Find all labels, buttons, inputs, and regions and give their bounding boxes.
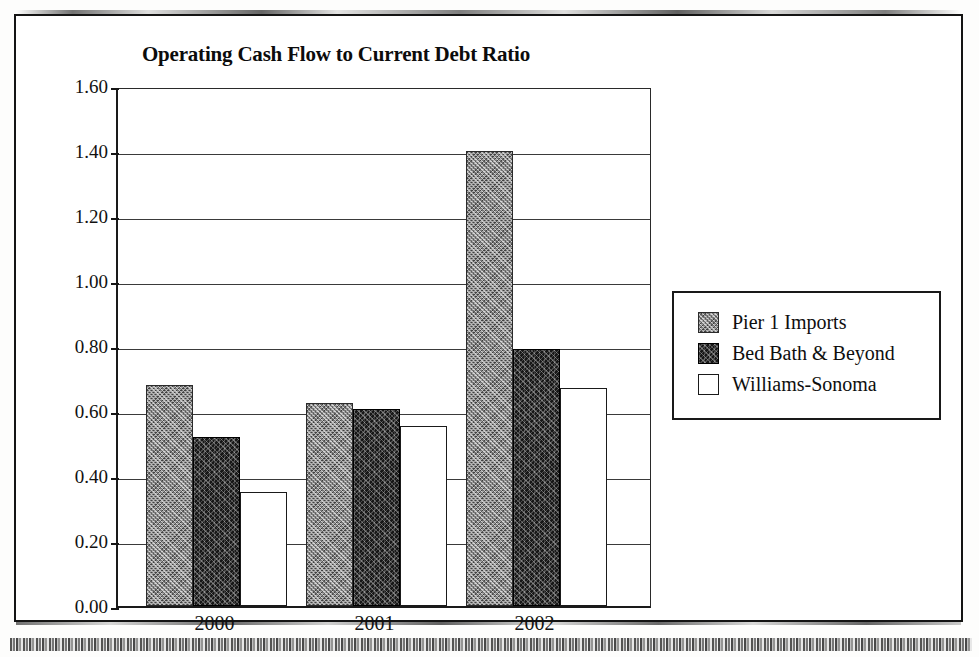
bar-bed-bath-beyond-2001	[353, 409, 400, 606]
y-axis-label: 1.60	[46, 76, 108, 98]
bar-pier-1-imports-2002	[466, 151, 513, 606]
bar-pier-1-imports-2001	[306, 403, 353, 606]
y-axis-label: 0.20	[46, 531, 108, 553]
x-axis-label-2000: 2000	[124, 612, 305, 635]
legend-swatch-icon	[698, 343, 719, 364]
scanned-page: Operating Cash Flow to Current Debt Rati…	[0, 0, 979, 657]
bars-layer	[118, 89, 650, 606]
figure-frame: Operating Cash Flow to Current Debt Rati…	[14, 14, 963, 622]
x-axis-label-2001: 2001	[284, 612, 465, 635]
y-axis-labels: 1.601.401.201.000.800.600.400.200.00	[42, 88, 108, 608]
bar-williams-sonoma-2002	[560, 388, 607, 606]
y-axis-label: 1.00	[46, 271, 108, 293]
bar-bed-bath-beyond-2000	[193, 437, 240, 606]
bar-bed-bath-beyond-2002	[513, 349, 560, 606]
legend-label: Williams-Sonoma	[732, 373, 877, 396]
legend-swatch-icon	[698, 312, 719, 333]
bar-williams-sonoma-2001	[400, 426, 447, 606]
legend-items: Pier 1 ImportsBed Bath & BeyondWilliams-…	[698, 307, 895, 400]
y-axis-label: 0.40	[46, 466, 108, 488]
y-axis-label: 1.40	[46, 141, 108, 163]
y-axis-label: 1.20	[46, 206, 108, 228]
legend-swatch-icon	[698, 374, 719, 395]
legend-item: Williams-Sonoma	[698, 369, 895, 400]
y-axis-label: 0.00	[46, 596, 108, 618]
legend-item: Bed Bath & Beyond	[698, 338, 895, 369]
scan-noise-strip	[10, 638, 972, 651]
chart-legend: Pier 1 ImportsBed Bath & BeyondWilliams-…	[672, 291, 941, 420]
bar-williams-sonoma-2000	[240, 492, 287, 606]
y-axis-tick	[111, 608, 119, 610]
x-axis-label-2002: 2002	[444, 612, 625, 635]
chart-title: Operating Cash Flow to Current Debt Rati…	[16, 42, 656, 67]
bar-pier-1-imports-2000	[146, 385, 193, 606]
y-axis-label: 0.80	[46, 336, 108, 358]
legend-label: Pier 1 Imports	[732, 311, 846, 334]
legend-label: Bed Bath & Beyond	[732, 342, 895, 365]
legend-item: Pier 1 Imports	[698, 307, 895, 338]
y-axis-label: 0.60	[46, 401, 108, 423]
plot-area	[116, 88, 651, 608]
